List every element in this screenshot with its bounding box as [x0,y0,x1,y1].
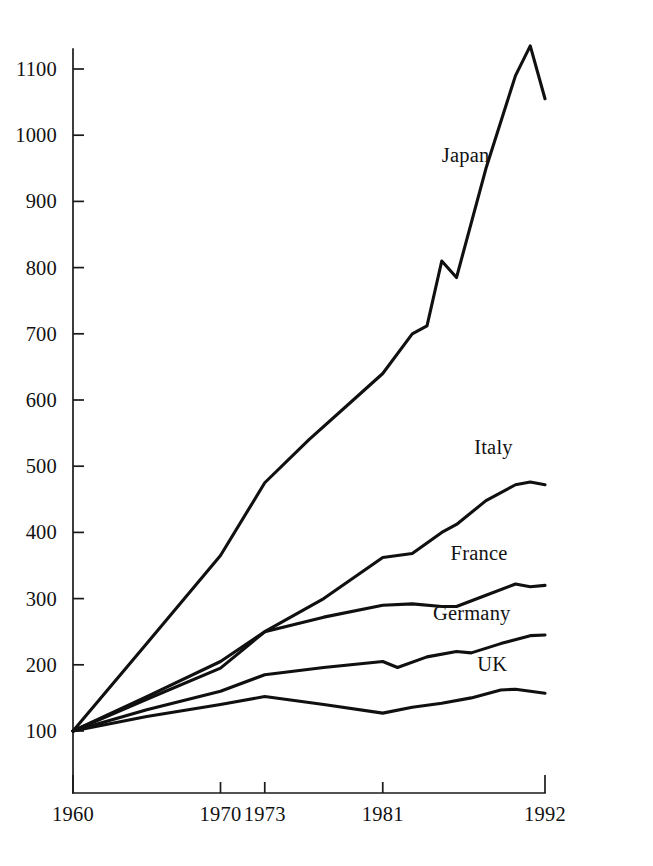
x-tick-label: 1981 [362,803,404,825]
y-tick-label: 1000 [15,124,57,146]
series-label-italy: Italy [474,436,513,459]
y-tick-label: 400 [26,521,57,543]
y-tick-label: 800 [26,257,57,279]
y-tick-label: 300 [26,588,57,610]
y-tick-label: 900 [26,190,57,212]
y-tick-label: 500 [26,455,57,477]
y-tick-label: 600 [26,389,57,411]
series-labels: JapanItalyFranceGermanyUK [433,144,513,676]
x-tick-label: 1960 [52,803,94,825]
series-label-japan: Japan [442,144,490,167]
x-axis: 19601970197319811992 [52,775,566,825]
y-tick-label: 100 [26,720,57,742]
series-label-france: France [451,542,508,564]
x-tick-label: 1970 [200,803,242,825]
y-axis: 10020030040050060070080090010001100 [15,49,84,793]
series-label-uk: UK [477,653,507,675]
x-tick-label: 1973 [244,803,286,825]
line-chart-figure: 10020030040050060070080090010001100 1960… [0,0,653,866]
chart-canvas: 10020030040050060070080090010001100 1960… [0,0,653,866]
y-tick-label: 1100 [16,58,57,80]
y-tick-label: 700 [26,323,57,345]
series-label-germany: Germany [433,602,511,625]
x-tick-label: 1992 [524,803,566,825]
y-tick-label: 200 [26,654,57,676]
